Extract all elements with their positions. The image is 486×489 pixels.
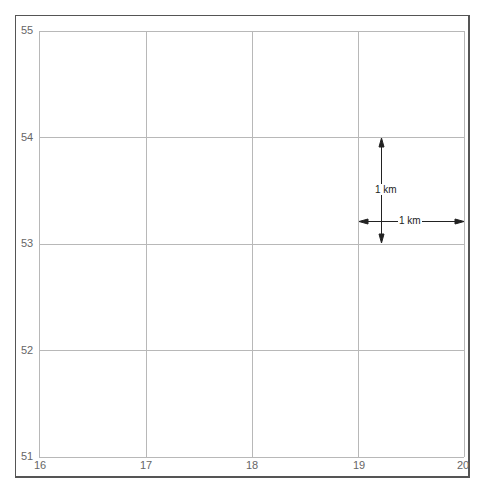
- horizontal-scale-label: 1 km: [398, 215, 422, 226]
- x-label-16: 16: [34, 459, 46, 471]
- y-label-55: 55: [21, 24, 33, 36]
- arrow-left-icon: [359, 219, 368, 224]
- y-label-54: 54: [21, 131, 33, 143]
- arrow-down-icon: [379, 234, 384, 243]
- grid-svg: [0, 0, 486, 489]
- arrow-right-icon: [455, 219, 464, 224]
- vertical-scale-label: 1 km: [374, 184, 398, 195]
- x-label-20: 20: [457, 459, 469, 471]
- x-label-17: 17: [140, 459, 152, 471]
- y-label-51: 51: [21, 450, 33, 462]
- arrow-up-icon: [379, 138, 384, 147]
- grid-lines: [39, 31, 465, 458]
- y-label-52: 52: [21, 344, 33, 356]
- y-label-53: 53: [21, 237, 33, 249]
- x-label-18: 18: [246, 459, 258, 471]
- x-label-19: 19: [353, 459, 365, 471]
